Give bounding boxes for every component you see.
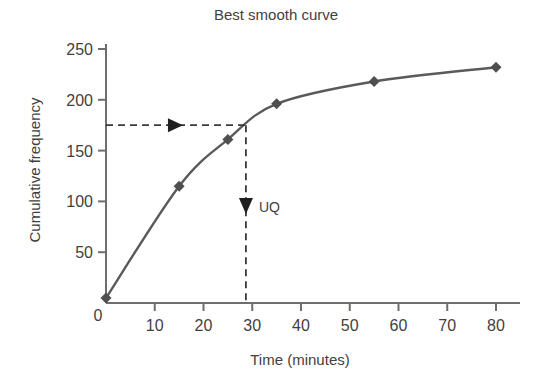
y-tick-label-100: 100 [66, 193, 93, 210]
x-tick-label-60: 60 [390, 317, 408, 334]
x-tick-label-40: 40 [292, 317, 310, 334]
y-tick-label-250: 250 [66, 41, 93, 58]
x-tick-label-10: 10 [146, 317, 164, 334]
x-tick-label-50: 50 [341, 317, 359, 334]
y-tick-label-150: 150 [66, 143, 93, 160]
y-tick-label-200: 200 [66, 92, 93, 109]
origin-zero-label: 0 [94, 307, 103, 324]
x-tick-label-30: 30 [243, 317, 261, 334]
x-tick-label-80: 80 [487, 317, 505, 334]
x-axis-label: Time (minutes) [250, 351, 349, 368]
x-tick-label-20: 20 [195, 317, 213, 334]
x-tick-label-70: 70 [438, 317, 456, 334]
uq-annotation-label: UQ [259, 199, 280, 215]
chart-canvas: Best smooth curve Cumulative frequency T… [0, 0, 533, 371]
cumulative-frequency-chart: Best smooth curve Cumulative frequency T… [0, 0, 533, 371]
chart-title: Best smooth curve [214, 6, 338, 23]
y-tick-label-50: 50 [75, 244, 93, 261]
y-axis-label: Cumulative frequency [26, 97, 43, 243]
